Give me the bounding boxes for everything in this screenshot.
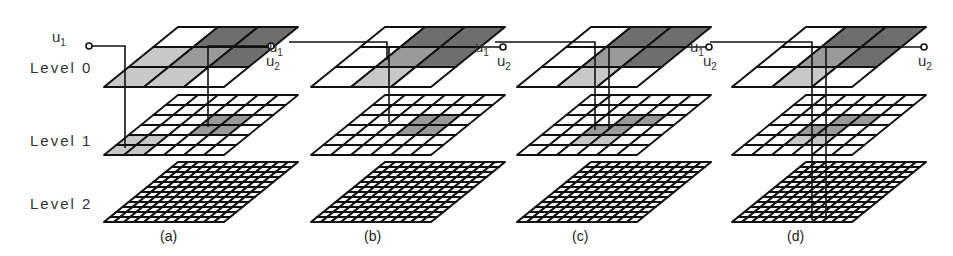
u1-label: u1	[52, 28, 66, 48]
level-2-grid	[104, 162, 298, 222]
level-1-grid	[104, 95, 298, 155]
level-1-grid	[517, 95, 711, 155]
u1-label: u1	[690, 38, 704, 58]
level-1-label: Level 1	[30, 132, 92, 149]
level-0-label: Level 0	[30, 59, 92, 76]
panel-caption: (d)	[787, 228, 804, 244]
level-1-grid	[311, 95, 505, 155]
u2-label: u2	[497, 52, 511, 72]
level-2-grid	[311, 162, 505, 222]
panel-caption: (a)	[160, 228, 177, 244]
panel-d	[710, 27, 927, 222]
panel-b	[289, 27, 506, 222]
panel-caption: (c)	[572, 228, 588, 244]
panel-c	[495, 27, 712, 222]
level-2-label: Level 2	[30, 195, 92, 212]
u1-label: u1	[475, 38, 489, 58]
level-1-grid	[732, 95, 926, 155]
panel-caption: (b)	[364, 228, 381, 244]
level-2-grid	[517, 162, 711, 222]
u1-label: u1	[269, 38, 283, 58]
level-2-grid	[732, 162, 926, 222]
level-0-grid	[517, 27, 711, 87]
u2-label: u2	[703, 52, 717, 72]
level-0-grid	[732, 27, 926, 87]
u2-label: u2	[918, 52, 932, 72]
